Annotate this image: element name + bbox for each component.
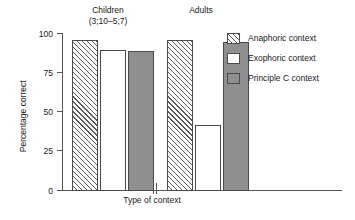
bar-chart: 100 75 50 25 0 Percentage correct Type o… — [0, 0, 355, 220]
legend-swatch-gray-icon — [227, 73, 240, 84]
bar-adults-exophoric — [195, 125, 221, 191]
legend-label-principle-c: Principle C context — [248, 74, 319, 83]
legend-item-anaphoric: Anaphoric context — [227, 28, 353, 48]
legend-label-exophoric: Exophoric context — [248, 54, 316, 63]
legend-swatch-hatched-icon — [227, 33, 240, 44]
legend-label-anaphoric: Anaphoric context — [248, 34, 316, 43]
bar-children-exophoric — [100, 50, 126, 191]
legend-item-exophoric: Exophoric context — [227, 48, 353, 68]
bar-children-principle-c — [128, 51, 154, 191]
bar-children-anaphoric — [72, 40, 98, 191]
legend-item-principle-c: Principle C context — [227, 68, 353, 88]
legend: Anaphoric context Exophoric context Prin… — [227, 28, 353, 88]
bar-adults-anaphoric — [167, 40, 193, 191]
x-axis-title: Type of context — [62, 196, 242, 205]
legend-swatch-white-icon — [227, 53, 240, 64]
